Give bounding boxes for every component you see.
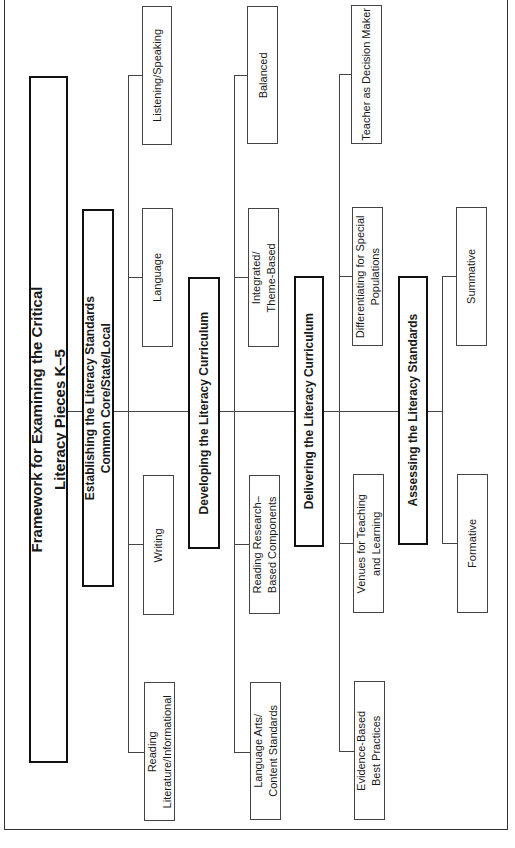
leaf-connector <box>128 752 144 753</box>
section-delivering-box: Delivering the Literacy Curriculum <box>294 276 324 547</box>
leaf-label: Integrated/ Theme-Based <box>249 243 279 312</box>
leaf-connector <box>128 277 142 278</box>
leaf-label-line-2: Content Standards <box>266 705 281 797</box>
branch-connector <box>442 276 443 543</box>
leaf-teacher-decision-maker: Teacher as Decision Maker <box>351 5 382 144</box>
leaf-reading-research: Reading Research– Based Components <box>249 475 280 614</box>
leaf-label-line-2: Theme-Based <box>264 243 279 312</box>
leaf-label-line-1: Writing <box>151 528 166 562</box>
spine-connector <box>113 411 188 412</box>
leaf-label: Venues for Teaching and Learning <box>354 494 384 593</box>
leaf-evidence-based: Evidence-Based Best Practices <box>354 681 385 820</box>
leaf-label: Language Arts/ Content Standards <box>251 705 281 797</box>
leaf-label-line-2: Based Components <box>265 496 280 593</box>
section-label-line-1: Establishing the Literacy Standards <box>82 296 98 500</box>
leaf-connector <box>234 277 248 278</box>
spine-connector <box>323 411 398 412</box>
leaf-connector <box>128 544 143 545</box>
leaf-label: Differentiating for Special Populations <box>353 215 383 338</box>
leaf-label-line-1: Listening/Speaking <box>150 29 165 122</box>
section-label-line-2: Common Core/State/Local <box>98 296 114 500</box>
leaf-label-line-1: Reading Research– <box>250 496 265 593</box>
leaf-label-line-1: Language Arts/ <box>251 705 266 797</box>
leaf-label-line-1: Language <box>150 253 165 302</box>
leaf-connector <box>339 74 351 75</box>
leaf-label-line-1: Venues for Teaching <box>354 494 369 593</box>
section-delivering-label: Delivering the Literacy Curriculum <box>301 313 317 509</box>
leaf-integrated: Integrated/ Theme-Based <box>248 208 279 347</box>
leaf-connector <box>339 751 354 752</box>
leaf-label-line-1: Evidence-Based <box>355 710 370 790</box>
leaf-label: Evidence-Based Best Practices <box>355 710 385 790</box>
leaf-label-line-1: Reading <box>145 695 160 808</box>
leaf-label: Summative <box>464 249 479 304</box>
section-label-line-1: Assessing the Literacy Standards <box>405 314 421 507</box>
leaf-label: Listening/Speaking <box>150 29 165 122</box>
leaf-venues: Venues for Teaching and Learning <box>353 474 384 613</box>
leaf-label: Language <box>150 253 165 302</box>
leaf-balanced: Balanced <box>247 6 278 144</box>
leaf-writing: Writing <box>143 475 174 615</box>
leaf-language: Language <box>142 208 173 347</box>
spine-connector <box>427 411 442 412</box>
leaf-summative: Summative <box>456 207 487 346</box>
leaf-label-line-1: Formative <box>465 519 480 568</box>
section-establishing-label: Establishing the Literacy Standards Comm… <box>82 296 114 500</box>
title-text: Framework for Examining the Critical Lit… <box>26 287 71 553</box>
section-assessing-box: Assessing the Literacy Standards <box>398 276 428 545</box>
leaf-label: Balanced <box>255 52 270 98</box>
section-developing-box: Developing the Literacy Curriculum <box>188 277 220 549</box>
leaf-formative: Formative <box>457 474 488 613</box>
leaf-differentiating: Differentiating for Special Populations <box>352 207 383 346</box>
title-line-1: Framework for Examining the Critical <box>26 287 49 553</box>
leaf-label-line-2: Literature/Informational <box>160 695 175 808</box>
leaf-connector <box>234 544 249 545</box>
branch-connector <box>339 74 340 752</box>
leaf-label: Writing <box>151 528 166 562</box>
leaf-connector <box>128 75 142 76</box>
leaf-reading-literature: Reading Literature/Informational <box>144 682 175 821</box>
branch-connector <box>128 75 129 752</box>
leaf-label-line-1: Teacher as Decision Maker <box>359 8 374 141</box>
leaf-label-line-1: Balanced <box>255 52 270 98</box>
section-establishing-box: Establishing the Literacy Standards Comm… <box>82 209 114 587</box>
leaf-label: Formative <box>465 519 480 568</box>
leaf-language-arts: Language Arts/ Content Standards <box>250 682 281 820</box>
leaf-label: Teacher as Decision Maker <box>359 8 374 141</box>
leaf-label-line-2: Best Practices <box>370 710 385 790</box>
leaf-label-line-1: Summative <box>464 249 479 304</box>
leaf-connector <box>234 752 250 753</box>
leaf-label-line-2: and Learning <box>369 494 384 593</box>
leaf-connector <box>442 276 456 277</box>
leaf-label: Reading Literature/Informational <box>145 695 175 808</box>
branch-connector <box>234 75 235 752</box>
leaf-connector <box>339 543 353 544</box>
leaf-connector <box>234 75 247 76</box>
title-line-2: Literacy Pieces K–5 <box>49 287 72 553</box>
section-label-line-1: Developing the Literacy Curriculum <box>196 312 212 515</box>
spine-connector <box>219 411 294 412</box>
leaf-connector <box>339 276 352 277</box>
leaf-connector <box>442 543 457 544</box>
title-box: Framework for Examining the Critical Lit… <box>29 76 68 763</box>
leaf-label-line-1: Integrated/ <box>249 243 264 312</box>
leaf-label-line-2: Populations <box>368 215 383 338</box>
leaf-label-line-1: Differentiating for Special <box>353 215 368 338</box>
section-label-line-1: Delivering the Literacy Curriculum <box>301 313 317 509</box>
leaf-label: Reading Research– Based Components <box>250 496 280 593</box>
section-assessing-label: Assessing the Literacy Standards <box>405 314 421 507</box>
section-developing-label: Developing the Literacy Curriculum <box>196 312 212 515</box>
leaf-listening-speaking: Listening/Speaking <box>142 6 172 145</box>
